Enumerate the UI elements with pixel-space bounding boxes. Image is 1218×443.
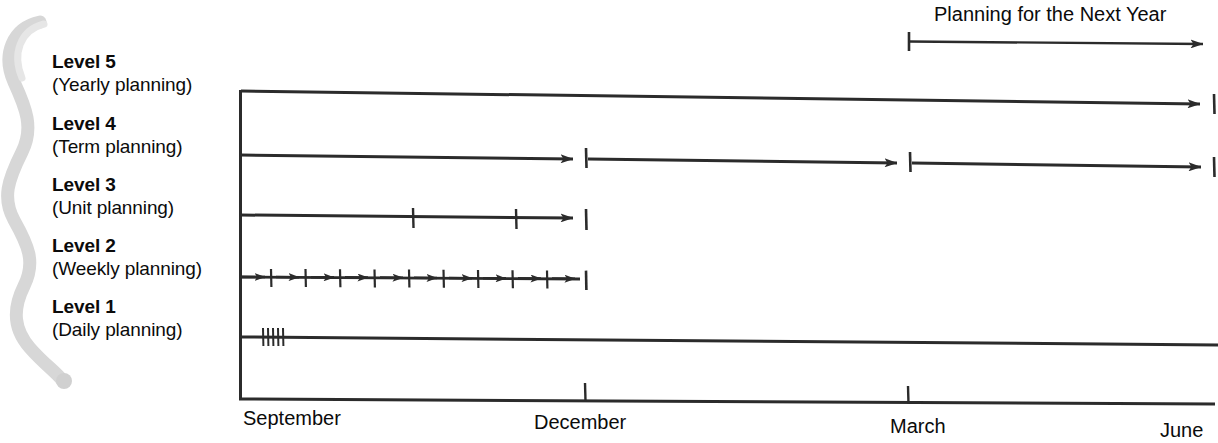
level-4-track: [241, 148, 1215, 177]
level-2-track: [241, 269, 586, 290]
next-year-arrow: [909, 32, 1203, 51]
chart-axes: [239, 90, 1215, 404]
level-1-track: [241, 328, 1218, 346]
level-5-track: [241, 91, 1215, 114]
planning-levels-diagram: Level 5 (Yearly planning) Level 4 (Term …: [0, 0, 1218, 443]
level-3-track: [241, 208, 587, 230]
